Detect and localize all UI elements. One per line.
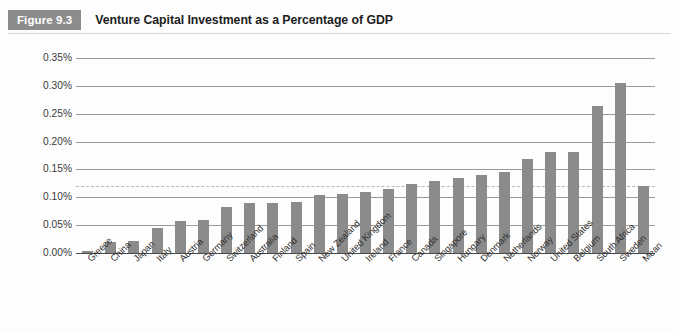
- y-axis-tick-label: 0.00%: [2, 247, 72, 258]
- y-axis-tick-label: 0.30%: [2, 80, 72, 91]
- x-axis-tick-labels: GreeceChinaJapanItalyAustriaGermanySwitz…: [76, 256, 679, 333]
- y-axis-tick-label: 0.15%: [2, 163, 72, 174]
- y-axis-tick-label: 0.35%: [2, 52, 72, 63]
- y-axis-tick-label: 0.20%: [2, 136, 72, 147]
- y-axis-tick-label: 0.10%: [2, 191, 72, 202]
- figure-container: Figure 9.3 Venture Capital Investment as…: [0, 0, 679, 333]
- chart-plot-area: 0.35%0.30%0.25%0.20%0.15%0.10%0.05%0.00%…: [0, 0, 679, 333]
- y-axis-tick-label: 0.25%: [2, 108, 72, 119]
- bar[interactable]: [592, 106, 603, 253]
- y-axis-tick-label: 0.05%: [2, 219, 72, 230]
